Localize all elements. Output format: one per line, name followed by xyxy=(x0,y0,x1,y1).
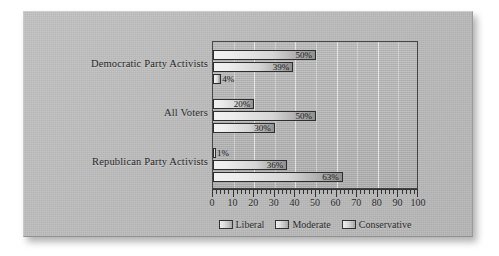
bar-value-label: 30% xyxy=(254,124,271,133)
x-tick-minor xyxy=(270,190,271,194)
x-tick-label-70: 70 xyxy=(351,197,361,208)
bar-value-label: 39% xyxy=(273,62,290,71)
x-tick-minor xyxy=(327,190,328,194)
x-tick-minor xyxy=(389,190,390,194)
x-tick-label-80: 80 xyxy=(372,197,382,208)
x-tick-minor xyxy=(282,190,283,194)
x-tick-minor xyxy=(257,190,258,194)
category-label-2: All Voters xyxy=(50,107,208,118)
x-tick-minor xyxy=(245,190,246,194)
x-tick-major xyxy=(377,190,378,197)
x-tick-major xyxy=(253,190,254,197)
bar-liberal-2: 20% xyxy=(213,99,254,109)
x-tick-minor xyxy=(307,190,308,194)
x-axis xyxy=(212,189,418,197)
x-tick-minor xyxy=(266,190,267,194)
x-tick-major xyxy=(274,190,275,197)
x-tick-minor xyxy=(344,190,345,194)
bar-value-label: 4% xyxy=(222,74,234,83)
x-tick-minor xyxy=(331,190,332,194)
x-tick-minor xyxy=(406,190,407,194)
x-tick-minor xyxy=(220,190,221,194)
x-tick-minor xyxy=(348,190,349,194)
x-tick-minor xyxy=(237,190,238,194)
legend-swatch-icon xyxy=(275,220,289,229)
bar-value-label: 50% xyxy=(296,50,313,59)
legend-label: Conservative xyxy=(359,219,412,230)
legend-item-liberal[interactable]: Liberal xyxy=(219,219,265,230)
x-tick-minor xyxy=(323,190,324,194)
bar-conservative-3: 63% xyxy=(213,172,343,182)
chart-panel: Democratic Party ActivistsAll VotersRepu… xyxy=(23,11,473,237)
chart-legend: LiberalModerateConservative xyxy=(212,216,418,232)
x-tick-minor xyxy=(364,190,365,194)
x-tick-minor xyxy=(393,190,394,194)
bar-moderate-1: 39% xyxy=(213,62,293,72)
x-tick-label-0: 0 xyxy=(210,197,215,208)
x-tick-minor xyxy=(311,190,312,194)
bar-value-label: 20% xyxy=(234,100,251,109)
legend-label: Moderate xyxy=(292,219,330,230)
bar-liberal-1: 50% xyxy=(213,50,316,60)
x-tick-minor xyxy=(228,190,229,194)
x-tick-major xyxy=(294,190,295,197)
legend-label: Liberal xyxy=(236,219,265,230)
x-tick-minor xyxy=(224,190,225,194)
bar-value-label: 36% xyxy=(267,161,284,170)
x-tick-minor xyxy=(299,190,300,194)
category-axis-labels: Democratic Party ActivistsAll VotersRepu… xyxy=(50,40,208,190)
x-tick-minor xyxy=(410,190,411,194)
bar-conservative-1: 4% xyxy=(213,74,221,84)
x-tick-major xyxy=(356,190,357,197)
bar-liberal-3: 1% xyxy=(213,148,216,158)
x-tick-minor xyxy=(261,190,262,194)
x-tick-minor xyxy=(216,190,217,194)
x-tick-minor xyxy=(303,190,304,194)
x-tick-minor xyxy=(286,190,287,194)
x-tick-label-40: 40 xyxy=(289,197,299,208)
chart-figure: Democratic Party ActivistsAll VotersRepu… xyxy=(0,0,499,256)
x-tick-major xyxy=(397,190,398,197)
legend-item-moderate[interactable]: Moderate xyxy=(275,219,330,230)
bar-value-label: 1% xyxy=(217,149,229,158)
x-tick-minor xyxy=(352,190,353,194)
x-tick-major xyxy=(315,190,316,197)
x-tick-minor xyxy=(340,190,341,194)
x-tick-minor xyxy=(249,190,250,194)
x-tick-minor xyxy=(414,190,415,194)
x-tick-major xyxy=(233,190,234,197)
x-tick-minor xyxy=(290,190,291,194)
x-tick-major xyxy=(212,190,213,197)
x-tick-minor xyxy=(402,190,403,194)
x-tick-minor xyxy=(373,190,374,194)
x-axis-tick-labels: 0102030405060708090100 xyxy=(212,197,418,211)
bar-moderate-3: 36% xyxy=(213,160,287,170)
x-tick-minor xyxy=(369,190,370,194)
x-tick-label-10: 10 xyxy=(228,197,238,208)
bar-value-label: 50% xyxy=(296,112,313,121)
x-tick-major xyxy=(417,190,418,197)
x-tick-label-20: 20 xyxy=(248,197,258,208)
legend-item-conservative[interactable]: Conservative xyxy=(342,219,412,230)
legend-swatch-icon xyxy=(219,220,233,229)
plot-area: 50%39%4%20%50%30%1%36%63% xyxy=(212,41,418,189)
bar-moderate-2: 50% xyxy=(213,111,316,121)
bar-value-label: 63% xyxy=(322,173,339,182)
x-tick-minor xyxy=(278,190,279,194)
x-tick-minor xyxy=(360,190,361,194)
bar-series-container: 50%39%4%20%50%30%1%36%63% xyxy=(213,42,417,188)
x-tick-label-60: 60 xyxy=(331,197,341,208)
x-tick-minor xyxy=(385,190,386,194)
x-tick-major xyxy=(336,190,337,197)
x-tick-label-100: 100 xyxy=(411,197,426,208)
category-label-3: Republican Party Activists xyxy=(50,156,208,167)
bar-conservative-2: 30% xyxy=(213,123,275,133)
x-tick-label-30: 30 xyxy=(269,197,279,208)
x-tick-label-90: 90 xyxy=(392,197,402,208)
x-tick-minor xyxy=(241,190,242,194)
x-tick-label-50: 50 xyxy=(310,197,320,208)
legend-swatch-icon xyxy=(342,220,356,229)
x-tick-minor xyxy=(381,190,382,194)
category-label-1: Democratic Party Activists xyxy=(50,58,208,69)
x-tick-minor xyxy=(319,190,320,194)
